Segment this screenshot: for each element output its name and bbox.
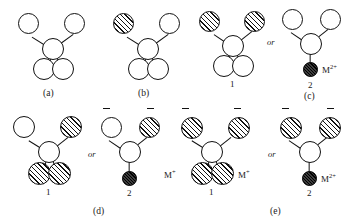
top-left-atom [282,9,303,30]
or-label-c: or [267,38,275,47]
panel-label-d: (d) [93,207,104,217]
center-atom [119,141,141,163]
top-right-atom [60,116,82,138]
top-left-atom [13,116,35,138]
metal-ion-symbol: M [238,170,246,180]
structure-e-2: M2+ 2 [282,108,343,193]
bottom-right-atom [48,162,71,185]
top-right-atom [159,13,180,34]
bottom-atom-metal [302,171,317,186]
bottom-right-atom [52,58,74,80]
structure-number: 1 [46,188,51,197]
negative-charge-top-right [234,108,241,109]
top-right-atom [319,117,341,139]
metal-ion-symbol: M [164,170,172,180]
center-atom [137,38,159,60]
top-left-atom [101,117,122,138]
structure-number: 1 [209,188,214,197]
panel-c: 1 or M2+ 2 (c) [186,0,343,105]
metal-ion-label-right: M+ [238,169,250,180]
negative-charge-top-left [182,108,189,109]
structure-number: 1 [230,80,235,89]
metal-ion-label: M2+ [322,64,337,75]
top-left-atom [113,13,134,34]
top-left-atom [181,117,203,139]
structure-e-1: M+ M+ 1 [160,108,265,193]
structure-c-2: M2+ 2 [282,0,343,80]
top-right-atom [244,11,265,32]
panel-label-e: (e) [270,207,281,217]
top-right-atom [64,13,85,34]
or-label-d: or [88,150,96,159]
top-right-atom [139,117,160,138]
center-atom [42,38,64,60]
bottom-right-atom [147,58,169,80]
negative-charge-top-right [327,108,334,109]
center-atom [222,35,244,57]
panel-label-b: (b) [138,89,149,99]
panel-label-a: (a) [43,89,54,99]
metal-ion-symbol: M [322,65,330,75]
structure-number: 2 [307,189,312,198]
panel-label-c: (c) [304,92,315,102]
top-right-atom [320,9,341,30]
metal-ion-symbol: M [321,174,329,184]
negative-charge-top-left [282,108,289,109]
panel-e: M+ M+ 1 or M2+ 2 (e) [160,108,343,223]
center-atom [299,141,321,163]
or-label-e: or [268,150,276,159]
structure-number: 2 [308,81,313,90]
metal-ion-charge: 2+ [329,172,336,179]
metal-ion-label-left: M+ [164,169,176,180]
negative-charge-top-left [103,108,110,109]
center-atom [300,33,322,55]
metal-ion-charge: + [172,168,176,175]
top-left-atom [280,117,302,139]
panel-d: 1 or 2 (d) [0,108,160,223]
structure-c-1: 1 [186,0,266,80]
metal-ion-charge: 2+ [330,63,337,70]
bottom-atom-metal [122,171,137,186]
negative-charge-top-right [147,108,154,109]
metal-ion-charge: + [246,168,250,175]
center-atom [201,141,223,163]
structure-b-1 [95,0,190,80]
bottom-atom-metal [303,62,318,77]
center-atom [38,141,60,163]
molecular-structure-figure: (a) (b) 1 [0,0,343,223]
bottom-right-atom [232,55,254,77]
structure-a-1 [0,0,95,80]
structure-d-2: 2 [103,108,160,193]
bottom-right-atom [211,162,234,185]
panel-a: (a) [0,0,95,105]
metal-ion-label: M2+ [321,173,336,184]
panel-b: (b) [95,0,190,105]
top-left-atom [18,13,39,34]
structure-d-1: 1 [0,108,85,193]
structure-number: 2 [127,189,132,198]
top-left-atom [199,11,220,32]
top-right-atom [228,117,250,139]
